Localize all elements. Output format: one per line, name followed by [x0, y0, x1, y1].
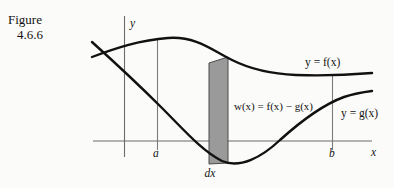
y-axis-label: y [129, 17, 136, 30]
representative-strip [209, 57, 228, 164]
x-axis-label: x [370, 146, 377, 158]
area-between-curves-plot: y x a b dx y = f(x) y = g(x) w(x) = f(x)… [0, 0, 394, 188]
curve-g-label: y = g(x) [341, 107, 378, 120]
curve-f-label: y = f(x) [305, 56, 340, 69]
dx-label: dx [205, 167, 217, 179]
x-tick-label-a: a [153, 147, 159, 159]
x-tick-label-b: b [329, 147, 335, 159]
strip-width-label: w(x) = f(x) − g(x) [234, 100, 313, 113]
figure-container: Figure 4.6.6 y x a b dx y = f(x) y = g(x… [0, 0, 394, 188]
